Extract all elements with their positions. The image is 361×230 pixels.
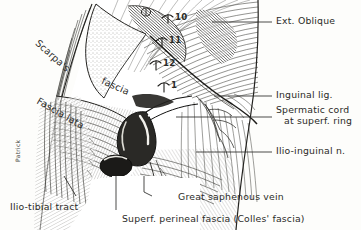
artist-signature: Patrick <box>14 140 21 162</box>
label-spermatic-cord: Spermatic cord at superf. ring <box>276 105 352 127</box>
label-inguinal-lig: Inguinal lig. <box>276 90 333 100</box>
marker-11-label: 11 <box>169 36 181 46</box>
label-ext-oblique: Ext. Oblique <box>276 16 335 26</box>
label-spermatic-cord-line2: at superf. ring <box>276 116 352 127</box>
anatomical-figure: Ext. Oblique Inguinal lig. Spermatic cor… <box>0 0 361 230</box>
label-colles-fascia: Superf. perineal fascia (Colles' fascia) <box>122 214 305 224</box>
label-ilio-inguinal-n: Ilio-inguinal n. <box>276 146 345 156</box>
marker-12-label: 12 <box>163 59 175 69</box>
marker-1-label: 1 <box>171 81 177 91</box>
label-ilio-tibial-tract: Ilio-tibial tract <box>10 202 78 212</box>
label-great-saphenous-vein: Great saphenous vein <box>178 192 284 202</box>
marker-10-label: 10 <box>175 13 187 23</box>
